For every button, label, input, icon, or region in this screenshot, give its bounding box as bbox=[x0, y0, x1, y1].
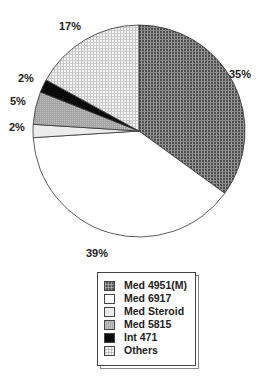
pie-slices bbox=[33, 25, 245, 237]
legend-item-med-4951: Med 4951(M) bbox=[104, 279, 195, 292]
legend-item-others: Others bbox=[104, 344, 195, 357]
legend-label: Med Steroid bbox=[124, 306, 184, 317]
legend-item-int-471: Int 471 bbox=[104, 331, 195, 344]
legend: Med 4951(M) Med 6917 Med Steroid Med 581… bbox=[97, 272, 196, 366]
slice-label-med-6917: 39% bbox=[86, 248, 108, 259]
slice-label-int-471: 2% bbox=[18, 73, 34, 84]
legend-swatch-black bbox=[104, 333, 115, 343]
legend-label: Med 5815 bbox=[124, 319, 171, 330]
slice-label-med-4951: 35% bbox=[229, 69, 251, 80]
slice-label-others: 17% bbox=[59, 21, 81, 32]
legend-item-med-steroid: Med Steroid bbox=[104, 305, 195, 318]
legend-label: Med 6917 bbox=[124, 293, 171, 304]
slice-label-med-steroid: 2% bbox=[9, 122, 25, 133]
slice-label-med-5815: 5% bbox=[10, 96, 26, 107]
legend-swatch-light-gray bbox=[104, 307, 115, 317]
legend-swatch-medium-gray bbox=[104, 320, 115, 330]
legend-label: Med 4951(M) bbox=[124, 280, 187, 291]
legend-item-med-6917: Med 6917 bbox=[104, 292, 195, 305]
legend-item-med-5815: Med 5815 bbox=[104, 318, 195, 331]
legend-label: Int 471 bbox=[124, 332, 157, 343]
legend-label: Others bbox=[124, 345, 158, 356]
legend-swatch-light-grid bbox=[104, 346, 115, 356]
legend-swatch-dark-grid bbox=[104, 281, 115, 291]
legend-swatch-white bbox=[104, 294, 115, 304]
